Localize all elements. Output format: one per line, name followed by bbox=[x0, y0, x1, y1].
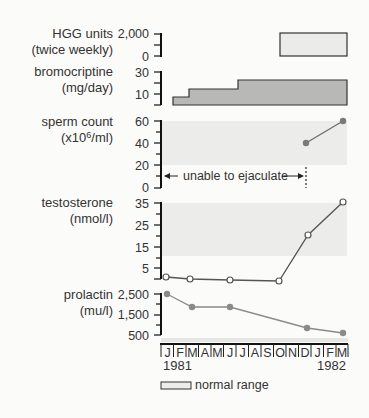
hgg-axis bbox=[154, 33, 161, 57]
hgg-tick-0: 0 bbox=[142, 50, 149, 64]
sperm-unit-b: /ml) bbox=[91, 130, 113, 145]
hgg-label: HGG units bbox=[52, 26, 113, 41]
testo-tick-15: 15 bbox=[135, 241, 149, 255]
month-label: J bbox=[227, 346, 233, 360]
sperm-point bbox=[303, 140, 309, 146]
prl-label: prolactin bbox=[64, 287, 113, 302]
month-label: O bbox=[275, 346, 285, 360]
sperm-axis bbox=[154, 120, 161, 188]
sperm-point bbox=[340, 118, 346, 124]
prl-unit: (mu/l) bbox=[80, 303, 113, 318]
testo-tick-35: 35 bbox=[135, 197, 149, 211]
bromo-area bbox=[173, 80, 347, 105]
chart-figure: HGG units (twice weekly) 2,000 0 bromocr… bbox=[0, 0, 369, 418]
hgg-unit: (twice weekly) bbox=[31, 42, 113, 57]
prl-axis bbox=[154, 293, 161, 335]
sperm-tick-60: 60 bbox=[135, 115, 149, 129]
sperm-count-panel: sperm count (x106/ml) 60 40 20 0 unable … bbox=[41, 114, 347, 195]
sperm-normal-range bbox=[162, 121, 347, 165]
testo-tick-5: 5 bbox=[142, 262, 149, 276]
sperm-unit: (x106/ml) bbox=[61, 130, 113, 145]
month-label: D bbox=[300, 346, 309, 360]
month-label: J bbox=[239, 346, 245, 360]
month-label: A bbox=[251, 346, 260, 360]
prl-tick-2500: 2,500 bbox=[118, 288, 149, 302]
bromo-unit: (mg/day) bbox=[62, 80, 113, 95]
bromo-tick-30: 30 bbox=[135, 66, 149, 80]
legend-label: normal range bbox=[195, 378, 269, 392]
sperm-tick-40: 40 bbox=[135, 137, 149, 151]
month-axis: J F M A M J J A S O N D J F M 1981 1982 bbox=[160, 338, 348, 373]
x-axis-shade bbox=[161, 338, 348, 342]
prl-tick-1500: 1,500 bbox=[118, 308, 149, 322]
sperm-tick-0: 0 bbox=[142, 181, 149, 195]
bromo-label: bromocriptine bbox=[34, 64, 113, 79]
testosterone-panel: testosterone (nmol/l) 35 25 15 5 bbox=[41, 195, 347, 284]
month-label: S bbox=[263, 346, 271, 360]
testo-normal-range bbox=[162, 203, 347, 256]
year-1981: 1981 bbox=[163, 358, 192, 373]
testo-unit: (nmol/l) bbox=[70, 211, 113, 226]
hgg-tick-2000: 2,000 bbox=[118, 27, 149, 41]
sperm-tick-20: 20 bbox=[135, 159, 149, 173]
legend-swatch bbox=[161, 382, 191, 389]
month-label: N bbox=[288, 346, 297, 360]
month-label: M bbox=[212, 346, 222, 360]
legend: normal range bbox=[161, 378, 269, 392]
bromocriptine-panel: bromocriptine (mg/day) 30 10 bbox=[34, 64, 347, 105]
prl-line bbox=[167, 294, 343, 333]
testo-tick-25: 25 bbox=[135, 219, 149, 233]
month-label: A bbox=[201, 346, 210, 360]
testo-label: testosterone bbox=[41, 195, 113, 210]
hgg-panel: HGG units (twice weekly) 2,000 0 bbox=[31, 26, 347, 64]
hgg-bar bbox=[280, 33, 347, 56]
sperm-label: sperm count bbox=[41, 114, 113, 129]
annotation-text: unable to ejaculate bbox=[183, 169, 288, 183]
prolactin-panel: prolactin (mu/l) 2,500 1,500 500 bbox=[64, 287, 346, 343]
unable-to-ejaculate-annotation: unable to ejaculate bbox=[164, 167, 306, 188]
year-1982: 1982 bbox=[317, 358, 346, 373]
bromo-axis bbox=[154, 71, 161, 105]
prl-tick-500: 500 bbox=[128, 329, 149, 343]
bromo-tick-10: 10 bbox=[135, 88, 149, 102]
sperm-unit-a: (x10 bbox=[61, 130, 86, 145]
testo-axis bbox=[154, 202, 161, 279]
